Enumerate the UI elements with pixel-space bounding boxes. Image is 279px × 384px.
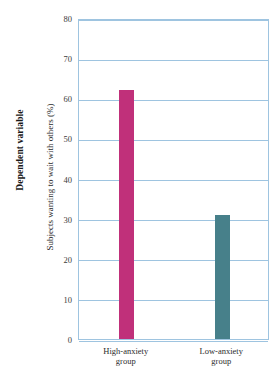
gridline: [79, 20, 268, 21]
gridline: [79, 220, 268, 221]
gridline: [79, 300, 268, 301]
y-axis-tick-label: 80: [46, 14, 72, 24]
gridline: [79, 341, 268, 342]
plot-area: [78, 19, 269, 340]
x-axis-category-label: High-anxietygroup: [81, 346, 171, 366]
gridline: [79, 260, 268, 261]
y-axis-tick-label: 60: [46, 94, 72, 104]
y-axis-tick-label: 0: [46, 335, 72, 345]
gridline: [79, 140, 268, 141]
gridline: [79, 180, 268, 181]
bar-high-anxiety: [119, 90, 134, 339]
gridline: [79, 100, 268, 101]
x-axis-category-label: Low-anxietygroup: [176, 346, 266, 366]
x-axis-category-line: High-anxiety: [81, 346, 171, 356]
x-axis-category-line: group: [176, 356, 266, 366]
dependent-variable-caption: Dependent variable: [15, 75, 25, 225]
gridline: [79, 60, 268, 61]
y-axis-tick-label: 70: [46, 54, 72, 64]
y-axis-tick-label: 10: [46, 295, 72, 305]
x-axis-category-line: Low-anxiety: [176, 346, 266, 356]
x-axis-category-line: group: [81, 356, 171, 366]
y-axis-tick-label: 50: [46, 134, 72, 144]
y-axis-tick-label: 30: [46, 215, 72, 225]
y-axis-tick-label: 20: [46, 255, 72, 265]
bar-chart-figure: Dependent variable Subjects wanting to w…: [0, 0, 279, 384]
bar-low-anxiety: [215, 215, 230, 339]
y-axis-tick-label: 40: [46, 175, 72, 185]
